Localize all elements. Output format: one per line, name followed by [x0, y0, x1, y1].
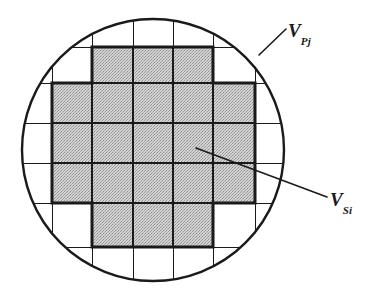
wafer-diagram: VPj VSi: [0, 0, 388, 297]
wafer-diagram-canvas: [0, 0, 388, 297]
leader-vpj: [259, 29, 286, 55]
label-v-si-subscript: Si: [343, 204, 353, 216]
label-v-si-base: V: [330, 189, 343, 210]
label-v-pj-subscript: Pj: [301, 35, 311, 47]
label-v-pj-base: V: [288, 20, 301, 41]
shaded-die-region-fill: [52, 47, 255, 247]
label-v-pj: VPj: [288, 21, 311, 43]
label-v-si: VSi: [330, 190, 352, 212]
